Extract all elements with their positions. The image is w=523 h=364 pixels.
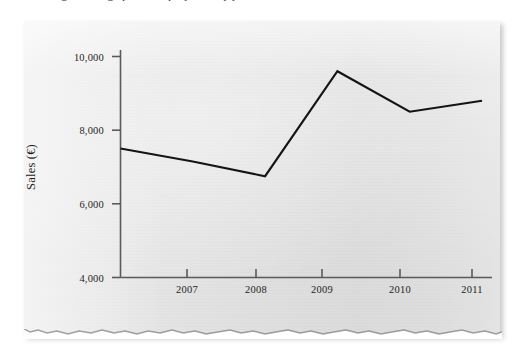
- x-tick-label-2010: 2010: [389, 284, 411, 295]
- y-tick-label-8000: 8,000: [62, 125, 104, 136]
- figure-caption-strip: Figure: line graph of company sales by y…: [0, 0, 523, 5]
- figure-caption: Figure: line graph of company sales by y…: [52, 0, 252, 1]
- y-axis-label: Sales (€): [24, 144, 39, 190]
- x-tick-label-2007: 2007: [176, 284, 198, 295]
- x-tick-label-2009: 2009: [311, 284, 333, 295]
- x-tick-label-2011: 2011: [461, 284, 482, 295]
- y-tick-label-10000: 10,000: [62, 52, 104, 63]
- x-tick-label-2008: 2008: [245, 284, 267, 295]
- y-tick-label-6000: 6,000: [62, 199, 104, 210]
- page-root: Figure: line graph of company sales by y…: [0, 0, 523, 364]
- y-tick-label-4000: 4,000: [62, 273, 104, 284]
